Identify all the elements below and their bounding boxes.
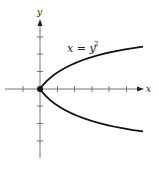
chart-svg: x y x = y 2 [0, 0, 159, 171]
chart-figure: x y x = y 2 [0, 0, 159, 171]
svg-text:x = y: x = y [67, 42, 96, 55]
x-axis-label: x [146, 84, 151, 94]
equation-annotation: x = y 2 [67, 40, 98, 55]
y-axis-label: y [36, 7, 43, 17]
y-axis-arrow-icon [38, 19, 43, 26]
svg-text:2: 2 [94, 40, 98, 48]
vertex-point [37, 86, 43, 92]
x-axis-arrow-icon [137, 87, 144, 92]
